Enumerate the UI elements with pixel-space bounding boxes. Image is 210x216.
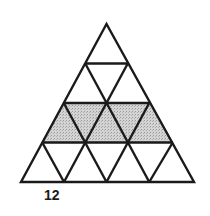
figure-number-label: 12: [44, 187, 60, 203]
grid-lines: [21, 24, 194, 182]
triangle-grid-diagram: [0, 0, 210, 216]
